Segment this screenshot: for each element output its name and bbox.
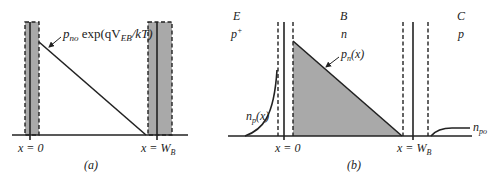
emitter-doping-label: p+ <box>230 26 242 41</box>
label-arrow-icon <box>326 57 339 67</box>
collector-electron-profile <box>431 128 470 136</box>
xwb-label: x = WB <box>140 141 175 157</box>
caption-a: (a) <box>84 158 98 172</box>
figure-b: E p+ B n C p pn(x) np(x) npo x = 0 x = <box>228 9 487 172</box>
figure-a: pno exp(qVEB/kT) x = 0 x = WB (a) <box>12 22 188 172</box>
collector-level-label: npo <box>473 120 487 136</box>
emitter-profile-label: np(x) <box>246 109 269 125</box>
caption-b: (b) <box>347 158 361 172</box>
x0-label: x = 0 <box>274 141 300 155</box>
region-label-base: B <box>340 9 348 23</box>
base-doping-label: n <box>341 27 347 41</box>
x0-label: x = 0 <box>17 141 43 155</box>
base-profile-label: pn(x) <box>340 47 364 63</box>
left-depletion-region <box>25 22 39 135</box>
emitter-electron-profile <box>245 70 277 136</box>
xwb-label: x = WB <box>396 141 431 157</box>
hole-profile-line <box>39 42 146 135</box>
region-label-emitter: E <box>232 9 241 23</box>
label-arrow-icon <box>49 37 61 47</box>
diagram-canvas: pno exp(qVEB/kT) x = 0 x = WB (a) E p+ B… <box>0 0 497 179</box>
boundary-condition-label: pno exp(qVEB/kT) <box>62 26 153 43</box>
collector-doping-label: p <box>457 27 464 41</box>
region-label-collector: C <box>457 9 466 23</box>
